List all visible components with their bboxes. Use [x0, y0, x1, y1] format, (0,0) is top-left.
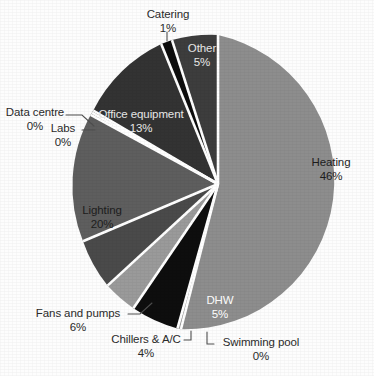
slice-label-office-equipment-name: Office equipment [86, 108, 196, 122]
slice-label-chillers-ac-percent: 4% [106, 347, 186, 361]
slice-label-other-name: Other [162, 42, 242, 56]
slice-label-lighting: Lighting 20% [70, 204, 134, 231]
slice-label-other: Other 5% [162, 42, 242, 69]
slice-label-swimming-pool-name: Swimming pool [215, 336, 307, 350]
slice-label-swimming-pool-percent: 0% [215, 350, 307, 364]
slice-label-office-equipment-percent: 13% [86, 122, 196, 136]
slice-label-heating: Heating 46% [296, 156, 366, 183]
slice-label-lighting-percent: 20% [70, 218, 134, 232]
slice-label-fans-and-pumps-name: Fans and pumps [28, 307, 128, 321]
slice-label-catering-name: Catering [118, 8, 218, 22]
slice-label-fans-and-pumps: Fans and pumps 6% [28, 307, 128, 334]
slice-label-dhw: DHW 5% [196, 294, 244, 321]
slice-label-office-equipment: Office equipment 13% [86, 108, 196, 135]
slice-label-catering-percent: 1% [118, 22, 218, 36]
slice-label-labs: Labs 0% [44, 122, 82, 149]
slice-label-chillers-ac: Chillers & A/C 4% [106, 333, 186, 360]
slice-label-dhw-name: DHW [196, 294, 244, 308]
leader-line-swimming-pool [207, 332, 214, 344]
slice-label-labs-name: Labs [44, 122, 82, 136]
slice-label-heating-name: Heating [296, 156, 366, 170]
slice-label-other-percent: 5% [162, 56, 242, 70]
slice-label-labs-percent: 0% [44, 136, 82, 150]
pie-chart-figure: Catering 1% Other 5% Heating 46% Office … [0, 0, 374, 376]
slice-label-lighting-name: Lighting [70, 204, 134, 218]
slice-label-dhw-percent: 5% [196, 308, 244, 322]
slice-label-chillers-ac-name: Chillers & A/C [106, 333, 186, 347]
slice-label-data-centre-name: Data centre [2, 106, 68, 120]
slice-label-catering: Catering 1% [118, 8, 218, 35]
slice-label-heating-percent: 46% [296, 170, 366, 184]
slice-label-swimming-pool: Swimming pool 0% [215, 336, 307, 363]
pie-slices [72, 35, 334, 330]
